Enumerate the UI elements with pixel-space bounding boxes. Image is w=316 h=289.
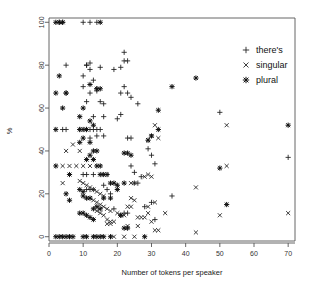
data-point-asterisk bbox=[53, 90, 58, 95]
data-point-asterisk bbox=[81, 105, 86, 110]
data-point-asterisk bbox=[77, 140, 82, 145]
data-point-asterisk bbox=[91, 123, 96, 128]
x-tick-label: 50 bbox=[216, 250, 224, 257]
data-point-asterisk bbox=[125, 226, 130, 231]
data-point-asterisk bbox=[53, 127, 58, 132]
x-tick-label: 60 bbox=[250, 250, 258, 257]
y-tick-label: 20 bbox=[39, 190, 46, 198]
data-point-asterisk bbox=[57, 73, 62, 78]
legend-marker-asterisk bbox=[243, 77, 249, 83]
data-point-asterisk bbox=[63, 90, 68, 95]
data-point-asterisk bbox=[67, 198, 72, 203]
data-point-asterisk bbox=[94, 148, 99, 153]
data-point-asterisk bbox=[91, 217, 96, 222]
data-point-asterisk bbox=[81, 135, 86, 140]
y-tick-label: 40 bbox=[39, 147, 46, 155]
data-point-asterisk bbox=[156, 127, 161, 132]
data-point-asterisk bbox=[53, 163, 58, 168]
legend-label-singular: singular bbox=[256, 60, 288, 70]
data-point-asterisk bbox=[70, 234, 75, 239]
x-tick-label: 10 bbox=[79, 250, 87, 257]
data-point-asterisk bbox=[224, 202, 229, 207]
data-point-asterisk bbox=[98, 163, 103, 168]
y-tick-label: 100 bbox=[39, 16, 46, 28]
data-point-asterisk bbox=[193, 75, 198, 80]
plot-canvas: 020406080100010203040506070 there'ssingu… bbox=[0, 0, 316, 289]
x-tick-label: 30 bbox=[148, 250, 156, 257]
data-point-asterisk bbox=[115, 187, 120, 192]
data-point-asterisk bbox=[217, 165, 222, 170]
data-point-asterisk bbox=[91, 157, 96, 162]
data-point-asterisk bbox=[87, 118, 92, 123]
data-point-asterisk bbox=[101, 196, 106, 201]
x-tick-label: 20 bbox=[113, 250, 121, 257]
plot-background bbox=[0, 0, 316, 289]
x-tick-label: 40 bbox=[182, 250, 190, 257]
data-point-asterisk bbox=[87, 196, 92, 201]
data-point-asterisk bbox=[98, 86, 103, 91]
y-tick-label: 80 bbox=[39, 61, 46, 69]
data-point-asterisk bbox=[60, 20, 65, 25]
data-point-asterisk bbox=[60, 105, 65, 110]
data-point-asterisk bbox=[63, 191, 68, 196]
data-point-asterisk bbox=[286, 123, 291, 128]
y-tick-label: 0 bbox=[39, 235, 46, 239]
legend-label-plural: plural bbox=[256, 75, 278, 85]
data-point-asterisk bbox=[84, 127, 89, 132]
data-point-asterisk bbox=[145, 138, 150, 143]
x-tick-label: 70 bbox=[284, 250, 292, 257]
data-point-asterisk bbox=[122, 181, 127, 186]
data-point-asterisk bbox=[108, 234, 113, 239]
data-point-asterisk bbox=[67, 172, 72, 177]
data-point-asterisk bbox=[87, 140, 92, 145]
scatter-plot-figure: 020406080100010203040506070 there'ssingu… bbox=[0, 0, 316, 289]
data-point-asterisk bbox=[98, 20, 103, 25]
legend-label-theres: there's bbox=[256, 45, 283, 55]
x-axis-title: Number of tokens per speaker bbox=[122, 268, 223, 277]
data-point-asterisk bbox=[84, 157, 89, 162]
x-tick-label: 0 bbox=[47, 250, 51, 257]
data-point-asterisk bbox=[142, 234, 147, 239]
y-tick-label: 60 bbox=[39, 104, 46, 112]
data-point-asterisk bbox=[149, 133, 154, 138]
data-point-asterisk bbox=[169, 84, 174, 89]
data-point-asterisk bbox=[77, 114, 82, 119]
data-point-asterisk bbox=[156, 108, 161, 113]
y-axis-title: % bbox=[5, 127, 14, 134]
data-point-asterisk bbox=[101, 234, 106, 239]
data-point-asterisk bbox=[128, 153, 133, 158]
data-point-asterisk bbox=[104, 172, 109, 177]
data-point-asterisk bbox=[118, 213, 123, 218]
data-point-asterisk bbox=[84, 234, 89, 239]
data-point-asterisk bbox=[98, 206, 103, 211]
data-point-asterisk bbox=[108, 196, 113, 201]
data-point-asterisk bbox=[87, 153, 92, 158]
data-point-asterisk bbox=[87, 82, 92, 87]
